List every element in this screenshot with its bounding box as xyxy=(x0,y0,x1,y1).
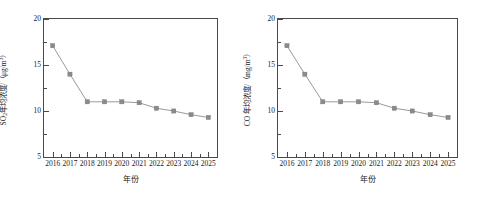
y-axis-title-species: SO xyxy=(0,116,8,126)
x-tick-label-2024: 2024 xyxy=(423,160,438,168)
data-point-2016 xyxy=(285,44,289,48)
y-axis-title-unit: 年均浓度/（μg/m xyxy=(0,60,8,113)
y-tick-5: 5 xyxy=(278,157,283,158)
x-tick-label-2018: 2018 xyxy=(315,160,330,168)
x-tick-label-2020: 2020 xyxy=(351,160,366,168)
series-so2 xyxy=(44,19,217,157)
data-point-2025 xyxy=(446,115,450,119)
x-tick-label-2022: 2022 xyxy=(149,160,164,168)
x-tick-label-2017: 2017 xyxy=(297,160,312,168)
x-tick-label-2025: 2025 xyxy=(201,160,216,168)
series-line xyxy=(53,46,209,118)
x-tick-label-2016: 2016 xyxy=(279,160,294,168)
data-point-2022 xyxy=(154,106,158,110)
data-point-2024 xyxy=(189,113,193,117)
y-tick-label-15: 15 xyxy=(34,61,42,69)
x-tick-label-2023: 2023 xyxy=(166,160,181,168)
data-point-2024 xyxy=(428,113,432,117)
series-co xyxy=(278,19,457,157)
data-point-2023 xyxy=(172,109,176,113)
series-line xyxy=(287,46,448,118)
data-point-2016 xyxy=(51,44,55,48)
y-axis-title-superscript: 3 xyxy=(242,57,248,60)
x-tick-label-2024: 2024 xyxy=(184,160,199,168)
data-point-2021 xyxy=(374,101,378,105)
y-tick-label-10: 10 xyxy=(268,107,276,115)
data-layer-co xyxy=(278,19,457,157)
data-point-2021 xyxy=(137,101,141,105)
figure-canvas: SO2年均浓度/（μg/m3） 5101520 2016201720182019… xyxy=(0,0,480,198)
plot-area-so2: 5101520 20162017201820192020202120222023… xyxy=(43,18,218,158)
y-tick-5: 5 xyxy=(44,157,49,158)
x-tick-label-2021: 2021 xyxy=(369,160,384,168)
data-point-2019 xyxy=(102,100,106,104)
y-axis-title-co: CO 年均浓度/（mg/m3） xyxy=(243,50,253,127)
y-axis-title-species: CO xyxy=(243,116,252,126)
data-point-2025 xyxy=(206,115,210,119)
x-tick-label-2025: 2025 xyxy=(441,160,456,168)
x-axis-title-co: 年份 xyxy=(277,176,458,184)
y-axis-title-close-paren: ） xyxy=(243,50,252,57)
data-point-2019 xyxy=(339,100,343,104)
chart-panel-co: CO 年均浓度/（mg/m3） 5101520 2016201720182019… xyxy=(240,0,480,198)
x-axis-title-so2: 年份 xyxy=(43,176,218,184)
y-tick-label-5: 5 xyxy=(271,153,275,161)
data-point-2018 xyxy=(321,100,325,104)
data-point-2020 xyxy=(120,100,124,104)
x-tick-label-2016: 2016 xyxy=(45,160,60,168)
y-axis-title-close-paren: ） xyxy=(0,51,8,58)
x-tick-label-2019: 2019 xyxy=(97,160,112,168)
x-tick-label-2023: 2023 xyxy=(405,160,420,168)
chart-panel-so2: SO2年均浓度/（μg/m3） 5101520 2016201720182019… xyxy=(0,0,240,198)
y-tick-label-20: 20 xyxy=(34,15,42,23)
data-layer-so2 xyxy=(44,19,217,157)
y-axis-title-superscript: 3 xyxy=(0,58,4,61)
x-tick-label-2019: 2019 xyxy=(333,160,348,168)
plot-area-co: 5101520 20162017201820192020202120222023… xyxy=(277,18,458,158)
y-axis-title-unit: 年均浓度/（mg/m xyxy=(243,59,252,115)
x-tick-label-2022: 2022 xyxy=(387,160,402,168)
y-tick-label-20: 20 xyxy=(268,15,276,23)
x-tick-label-2017: 2017 xyxy=(62,160,77,168)
x-tick-label-2020: 2020 xyxy=(114,160,129,168)
data-point-2017 xyxy=(68,72,72,76)
y-axis-title-subscript: 2 xyxy=(2,113,8,116)
y-axis-title-so2: SO2年均浓度/（μg/m3） xyxy=(0,51,9,126)
data-point-2023 xyxy=(410,109,414,113)
y-tick-label-5: 5 xyxy=(37,153,41,161)
y-tick-label-10: 10 xyxy=(34,107,42,115)
data-point-2022 xyxy=(392,106,396,110)
x-tick-label-2018: 2018 xyxy=(80,160,95,168)
y-tick-label-15: 15 xyxy=(268,61,276,69)
data-point-2017 xyxy=(303,72,307,76)
data-point-2018 xyxy=(85,100,89,104)
x-tick-label-2021: 2021 xyxy=(132,160,147,168)
data-point-2020 xyxy=(356,100,360,104)
